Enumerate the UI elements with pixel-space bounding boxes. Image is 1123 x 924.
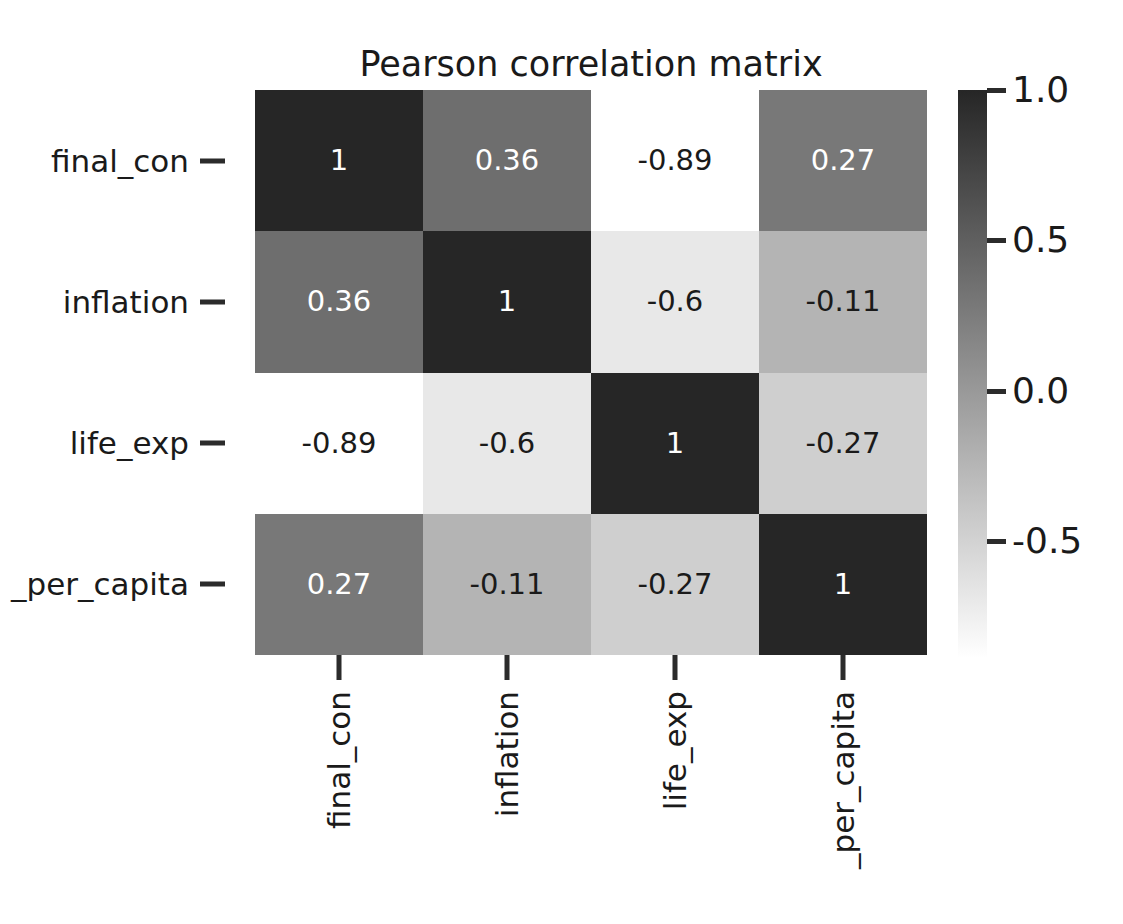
heatmap-cell-value: -0.89: [637, 146, 712, 175]
x-axis-label-text: final_con: [321, 691, 357, 829]
y-axis-labels: final_con inflation life_exp _per_capita: [0, 90, 225, 655]
colorbar-tick-label: 0.5: [1012, 222, 1069, 258]
heatmap-cell: -0.27: [591, 514, 759, 655]
y-axis-label-text: life_exp: [70, 425, 189, 461]
y-axis-tick-3: _per_capita: [0, 514, 225, 655]
colorbar-tick-label: 0.0: [1012, 373, 1069, 409]
heatmap-cell: -0.6: [423, 373, 591, 514]
colorbar-tick-mark-icon: [987, 238, 1006, 243]
y-tick-mark-icon: [200, 299, 225, 304]
y-tick-mark-icon: [200, 441, 225, 446]
colorbar-gradient: [958, 90, 987, 658]
x-axis-tick-3: _per_capita: [759, 655, 927, 924]
heatmap-cell-value: 0.36: [475, 146, 540, 175]
heatmap-cell: -0.89: [591, 90, 759, 231]
x-axis-label-text: _per_capita: [825, 691, 861, 869]
y-tick-mark-icon: [200, 158, 225, 163]
heatmap-cell-value: 0.36: [307, 287, 372, 316]
heatmap-cell: 1: [759, 514, 927, 655]
heatmap-cell-value: 0.27: [811, 146, 876, 175]
heatmap-cell-value: 1: [834, 570, 852, 599]
x-axis-labels: final_con inflation life_exp _per_capita: [255, 655, 927, 924]
heatmap-cell-value: -0.11: [469, 570, 544, 599]
x-tick-mark-icon: [505, 655, 510, 680]
heatmap-cell: 1: [255, 90, 423, 231]
heatmap-cell-value: 1: [330, 146, 348, 175]
y-axis-label-text: inflation: [63, 284, 189, 320]
heatmap-cell: 0.27: [759, 90, 927, 231]
heatmap-cell: 1: [591, 373, 759, 514]
y-axis-label-text: _per_capita: [11, 566, 189, 602]
heatmap-cell: 1: [423, 231, 591, 372]
x-tick-mark-icon: [337, 655, 342, 680]
heatmap-cell-value: 1: [666, 429, 684, 458]
heatmap-cell-value: 1: [498, 287, 516, 316]
colorbar-tick-label: -0.5: [1012, 523, 1082, 559]
heatmap-cell: -0.11: [423, 514, 591, 655]
y-axis-tick-0: final_con: [0, 90, 225, 231]
heatmap-cell: -0.11: [759, 231, 927, 372]
colorbar-tick-mark-icon: [987, 389, 1006, 394]
colorbar: 1.0 0.5 0.0 -0.5: [958, 90, 1123, 660]
heatmap-cell: -0.27: [759, 373, 927, 514]
x-axis-tick-2: life_exp: [591, 655, 759, 924]
heatmap-cell-value: -0.6: [647, 287, 704, 316]
heatmap-cell-value: -0.27: [805, 429, 880, 458]
heatmap-cell: 0.36: [423, 90, 591, 231]
x-axis-tick-1: inflation: [423, 655, 591, 924]
colorbar-tick-mark-icon: [987, 88, 1006, 93]
y-tick-mark-icon: [200, 582, 225, 587]
heatmap-cell-value: -0.89: [301, 429, 376, 458]
heatmap-cell-value: -0.6: [479, 429, 536, 458]
x-tick-mark-icon: [673, 655, 678, 680]
heatmap-cell: -0.6: [591, 231, 759, 372]
page-title: Pearson correlation matrix: [255, 43, 927, 85]
x-axis-label-text: life_exp: [657, 691, 693, 810]
y-axis-tick-2: life_exp: [0, 373, 225, 514]
heatmap-cell: 0.27: [255, 514, 423, 655]
heatmap-cell-value: -0.27: [637, 570, 712, 599]
y-axis-label-text: final_con: [51, 143, 189, 179]
x-axis-tick-0: final_con: [255, 655, 423, 924]
heatmap-cell: 0.36: [255, 231, 423, 372]
x-tick-mark-icon: [841, 655, 846, 680]
heatmap-cell: -0.89: [255, 373, 423, 514]
correlation-matrix-figure: Pearson correlation matrix final_con inf…: [0, 0, 1123, 924]
x-axis-label-text: inflation: [489, 691, 525, 817]
y-axis-tick-1: inflation: [0, 231, 225, 372]
heatmap-cell-value: -0.11: [805, 287, 880, 316]
heatmap-cell-value: 0.27: [307, 570, 372, 599]
colorbar-tick-label: 1.0: [1012, 72, 1069, 108]
heatmap-grid: 1 0.36 -0.89 0.27 0.36 1 -0.6 -0.11 -0.8…: [255, 90, 927, 655]
colorbar-tick-mark-icon: [987, 539, 1006, 544]
